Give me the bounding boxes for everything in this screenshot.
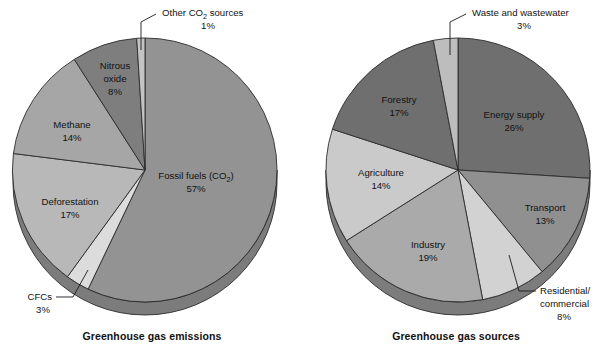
slice-value-nitrous-oxide: 8% (108, 86, 122, 97)
slice-value-agriculture: 14% (371, 180, 391, 191)
slice-value-fossil-fuels: 57% (186, 183, 206, 194)
slice-label-agriculture: Agriculture (358, 167, 404, 178)
slice-value-methane: 14% (62, 132, 82, 143)
slice-value-deforestation: 17% (60, 209, 80, 220)
slice-label-energy-supply: Energy supply (484, 109, 545, 120)
callout-value-cfcs: 3% (36, 304, 50, 315)
greenhouse-gas-pie-charts-figure: Fossil fuels (CO2) 57% Deforestation 17%… (0, 0, 608, 356)
slice-label-nitrous-oxide-line2: oxide (104, 73, 127, 84)
callout-label-waste-and-wastewater: Waste and wastewater (472, 7, 569, 18)
slice-label-transport: Transport (525, 202, 566, 213)
callout-value-other-co2-sources: 1% (201, 20, 215, 31)
slice-value-energy-supply: 26% (504, 122, 524, 133)
callout-value-waste-and-wastewater: 3% (517, 20, 531, 31)
slice-label-industry: Industry (411, 239, 445, 250)
slice-value-transport: 13% (535, 215, 555, 226)
callout-value-residential-commercial: 8% (557, 311, 571, 322)
slice-label-deforestation: Deforestation (41, 196, 98, 207)
chart-caption-sources: Greenhouse gas sources (304, 330, 608, 342)
callout-label-cfcs: CFCs (27, 291, 52, 302)
slice-label-forestry: Forestry (381, 94, 416, 105)
slice-value-forestry: 17% (389, 107, 409, 118)
callout-label-residential-commercial-line2: commercial (540, 298, 589, 309)
chart-caption-emissions: Greenhouse gas emissions (0, 330, 304, 342)
callout-label-residential-commercial: Residential/ (540, 285, 590, 296)
slice-label-methane: Methane (53, 119, 90, 130)
slice-value-industry: 19% (418, 252, 438, 263)
slice-label-nitrous-oxide: Nitrous (100, 60, 131, 71)
